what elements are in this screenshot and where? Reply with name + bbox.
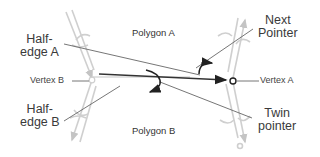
label-polygon-a: Polygon A (132, 28, 175, 38)
label-twin-pointer-line2: pointer (258, 120, 296, 133)
label-vertex-a: Vertex A (260, 76, 294, 85)
label-polygon-b: Polygon B (132, 126, 175, 136)
vertex-a-marker (230, 78, 236, 84)
leader-lines (64, 29, 259, 121)
label-half-edge-a: Half- edge A (20, 33, 59, 59)
label-next-pointer: Next Pointer (258, 14, 298, 40)
label-twin-pointer: Twin pointer (258, 107, 296, 133)
twin-curve-arrow (146, 70, 160, 92)
label-half-edge-b-line2: edge B (20, 116, 60, 129)
vertex-b-marker (89, 77, 95, 83)
label-vertex-b: Vertex B (30, 76, 64, 85)
label-half-edge-a-line2: edge A (20, 46, 59, 59)
label-next-pointer-line2: Pointer (258, 27, 298, 40)
label-half-edge-b: Half- edge B (20, 103, 60, 129)
